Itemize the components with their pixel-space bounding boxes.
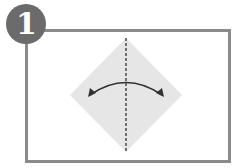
step-number: 1 [16, 9, 37, 39]
origami-step-diagram: 1 [0, 0, 238, 168]
